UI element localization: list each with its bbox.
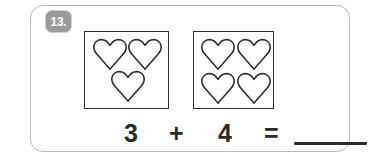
- worksheet-card: 13. 3 + 4 =: [30, 5, 350, 152]
- plus-operator: +: [169, 118, 184, 148]
- heart-icon: [110, 70, 146, 107]
- heart-icon: [236, 38, 272, 75]
- equation-row: 3 + 4 =: [84, 118, 369, 152]
- heart-icon: [236, 72, 272, 109]
- equation-addend-1: 3: [124, 118, 138, 148]
- heart-icon: [200, 38, 236, 75]
- heart-group-box-left: [84, 31, 169, 109]
- equals-operator: =: [264, 118, 279, 148]
- heart-group-box-right: [193, 31, 274, 109]
- question-number-label: 13.: [51, 16, 67, 28]
- question-number-badge: 13.: [45, 10, 72, 33]
- equation-addend-2: 4: [218, 118, 232, 148]
- answer-blank-line[interactable]: [294, 142, 367, 145]
- heart-icon: [200, 72, 236, 109]
